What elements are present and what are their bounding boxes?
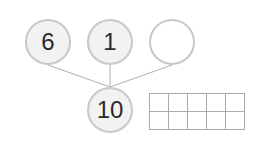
whole-circle: 10	[87, 87, 133, 133]
ten-frame-cell	[150, 94, 169, 112]
ten-frame-cell	[226, 112, 245, 130]
ten-frame-cell	[169, 112, 188, 130]
ten-frame-cell	[188, 112, 207, 130]
part-circle-2: 1	[87, 19, 133, 65]
ten-frame-cell	[207, 112, 226, 130]
part-value-1: 6	[41, 28, 54, 56]
ten-frame-cell	[150, 112, 169, 130]
whole-value: 10	[97, 96, 124, 124]
ten-frame-cell	[188, 94, 207, 112]
ten-frame-cell	[207, 94, 226, 112]
ten-frame-cell	[169, 94, 188, 112]
ten-frame	[149, 93, 245, 130]
part-circle-1: 6	[25, 19, 71, 65]
part-circle-3-empty[interactable]	[149, 19, 195, 65]
ten-frame-cell	[226, 94, 245, 112]
part-value-2: 1	[103, 28, 116, 56]
